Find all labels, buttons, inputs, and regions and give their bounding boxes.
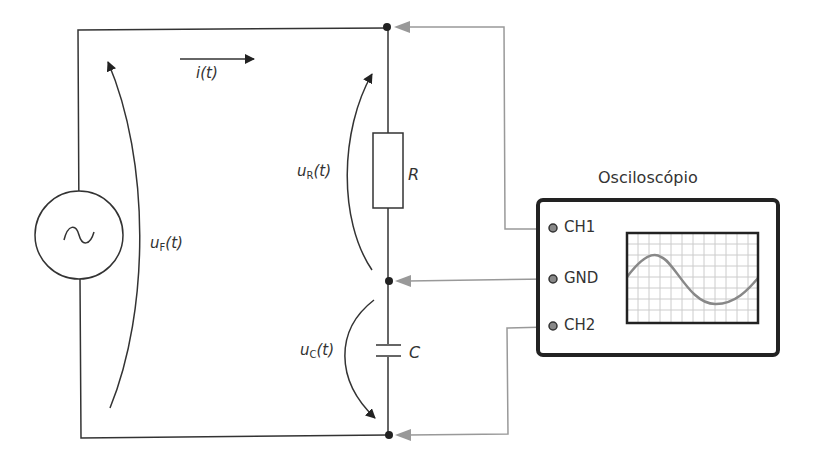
source-voltage-symbol: u [150,234,160,252]
ch1-terminal-label: CH1 [564,218,595,236]
capacitor-voltage-symbol: u [300,341,310,359]
capacitor-voltage-arrow [345,300,375,418]
oscilloscope-screen [627,233,758,323]
capacitor-label: C [409,343,420,362]
circuit-wires [78,28,388,438]
source-voltage-label: uF(t) [150,234,183,253]
resistor-label: R [408,165,419,184]
oscilloscope-title: Osciloscópio [598,168,698,187]
ac-source [35,191,123,279]
ch2-terminal-icon [549,322,557,330]
gnd-terminal-icon [549,275,557,283]
ch1-terminal-icon [549,224,557,232]
probe-tips [394,21,411,441]
resistor-voltage-arg: (t) [313,162,331,180]
capacitor-voltage-arg: (t) [317,341,335,359]
source-voltage-arg: (t) [165,234,183,252]
gnd-terminal-label: GND [564,269,598,287]
circuit-diagram [0,0,816,464]
resistor-voltage-arrow [347,74,372,270]
probe-wires [408,27,548,435]
capacitor [376,345,401,356]
current-label: i(t) [196,64,218,82]
ch2-terminal-label: CH2 [564,316,595,334]
resistor [373,133,403,208]
resistor-voltage-symbol: u [297,162,307,180]
resistor-voltage-label: uR(t) [297,162,331,181]
capacitor-voltage-label: uC(t) [300,341,334,360]
capacitor-voltage-subscript: C [310,349,317,360]
